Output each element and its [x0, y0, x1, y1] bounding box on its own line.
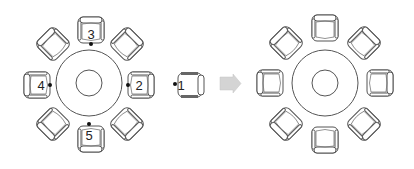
seat-label-2: 2 [135, 79, 142, 92]
seating-diagram: 3 2 4 5 1 [0, 0, 414, 169]
right-table-group [257, 15, 393, 153]
left-table-inner [76, 70, 102, 96]
right-chair-southwest [268, 106, 305, 143]
left-chair-northeast [109, 26, 146, 63]
right-chair-east [367, 70, 393, 96]
seat-label-3: 3 [87, 28, 94, 41]
right-chair-south [312, 127, 338, 153]
right-chair-west [257, 70, 283, 96]
right-chair-north [312, 15, 338, 41]
right-table-inner [312, 70, 338, 96]
left-chair-southeast [109, 106, 146, 143]
left-chair-southwest [35, 106, 72, 143]
left-chair-northwest [35, 26, 72, 63]
seat-dot-3 [89, 42, 93, 46]
right-chair-northwest [268, 25, 305, 62]
seat-label-5: 5 [85, 129, 92, 142]
seat-dot-5 [87, 122, 91, 126]
seat-dot-4 [48, 83, 52, 87]
right-chair-southeast [346, 106, 383, 143]
seat-label-4: 4 [37, 79, 44, 92]
seat-dot-2 [126, 83, 130, 87]
diagram-canvas [0, 0, 414, 169]
right-chair-northeast [346, 25, 383, 62]
seat-label-1: 1 [177, 79, 184, 92]
arrow-right-icon [220, 74, 241, 93]
